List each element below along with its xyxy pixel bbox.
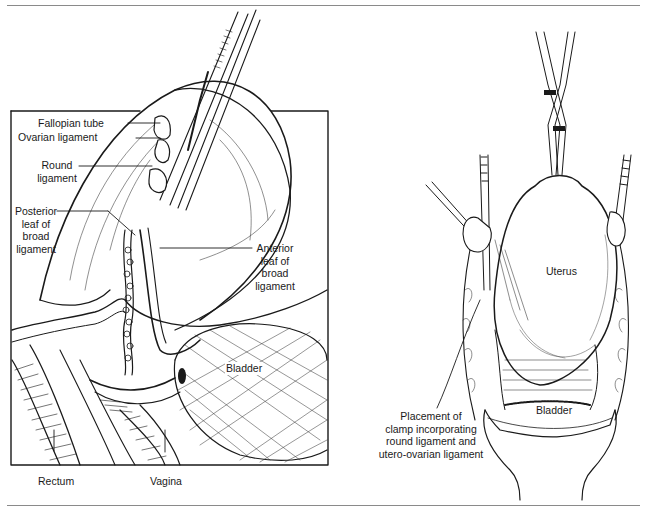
label-fallopian-tube: Fallopian tube — [37, 117, 105, 130]
label-anterior-line3: broad — [252, 267, 298, 280]
label-vagina: Vagina — [150, 475, 182, 488]
label-anterior-leaf: Anterior leaf of broad ligament — [252, 242, 298, 292]
label-posterior-line1: Posterior — [12, 205, 60, 218]
label-posterior-line2: leaf of — [12, 218, 60, 231]
label-posterior-line3: broad — [12, 230, 60, 243]
label-round-ligament: Round ligament — [32, 159, 82, 184]
right-anterior-illustration — [0, 0, 647, 513]
label-anterior-line2: leaf of — [252, 255, 298, 268]
label-anterior-line1: Anterior — [252, 242, 298, 255]
top-clamp-instrument — [536, 32, 575, 175]
label-clamp-line1: Placement of — [366, 410, 496, 423]
label-rectum: Rectum — [38, 475, 74, 488]
label-uterus: Uterus — [546, 265, 577, 278]
label-clamp-placement: Placement of clamp incorporating round l… — [366, 410, 496, 460]
label-round-ligament-line1: Round — [32, 159, 82, 172]
uterus-body — [494, 176, 617, 386]
label-ovarian-ligament: Ovarian ligament — [17, 131, 98, 144]
label-bladder-right: Bladder — [536, 404, 572, 417]
label-anterior-line4: ligament — [252, 280, 298, 293]
label-posterior-line4: ligament — [12, 243, 60, 256]
label-clamp-line4: utero-ovarian ligament — [366, 448, 496, 461]
label-clamp-line2: clamp incorporating — [366, 423, 496, 436]
label-round-ligament-line2: ligament — [32, 172, 82, 185]
clamp-leader-line — [437, 300, 480, 408]
label-bladder-left: Bladder — [225, 362, 263, 375]
label-clamp-line3: round ligament and — [366, 435, 496, 448]
bladder-right — [484, 410, 617, 500]
label-posterior-leaf: Posterior leaf of broad ligament — [12, 205, 60, 255]
